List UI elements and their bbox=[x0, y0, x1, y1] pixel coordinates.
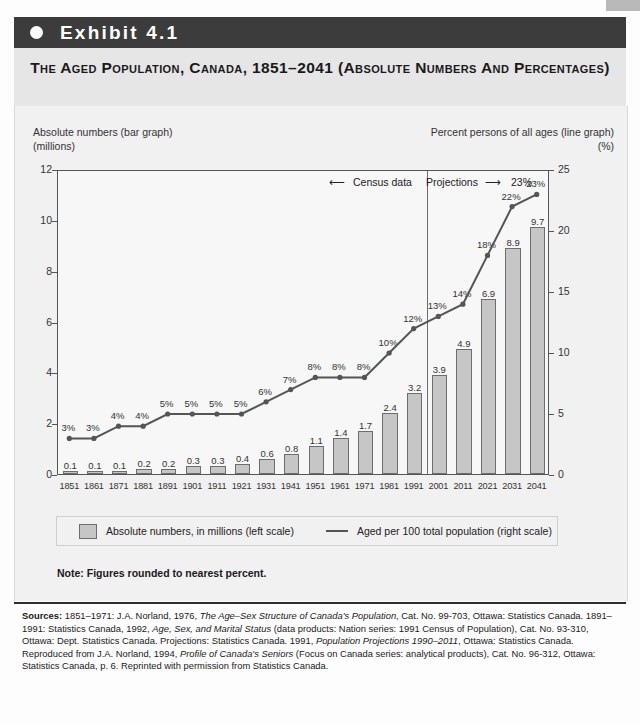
legend-bar-swatch bbox=[79, 524, 97, 539]
left-tick-8: 8 bbox=[24, 265, 52, 277]
exhibit-label: Exhibit 4.1 bbox=[60, 22, 179, 44]
right-axis-caption-line2: (%) bbox=[598, 140, 614, 153]
bar-value-label-2011: 4.9 bbox=[447, 338, 481, 349]
right-tickmark bbox=[549, 292, 554, 293]
line-value-label-1881: 4% bbox=[127, 410, 157, 421]
left-tick-12: 12 bbox=[24, 163, 52, 175]
right-tick-25: 25 bbox=[558, 163, 570, 175]
line-value-label-1921: 5% bbox=[226, 398, 256, 409]
right-tick-20: 20 bbox=[558, 224, 570, 236]
left-tick-10: 10 bbox=[24, 214, 52, 226]
left-tickmark bbox=[52, 323, 57, 324]
chart-plot-area: 0.10.10.10.20.20.30.30.40.60.81.11.41.72… bbox=[57, 170, 549, 475]
sources-divider bbox=[14, 602, 626, 604]
right-tickmark bbox=[549, 231, 554, 232]
bar-1961 bbox=[333, 438, 348, 474]
bar-1911 bbox=[210, 466, 225, 474]
bar-2031 bbox=[505, 248, 520, 474]
filled-circle-icon bbox=[30, 26, 43, 39]
bar-2001 bbox=[432, 375, 447, 474]
left-tickmark bbox=[52, 424, 57, 425]
exhibit-page: Exhibit 4.1 The Aged Population, Canada,… bbox=[0, 0, 640, 724]
bar-value-label-2041: 9.7 bbox=[521, 216, 555, 227]
legend-line-swatch bbox=[326, 530, 348, 532]
line-value-label-1861: 3% bbox=[78, 422, 108, 433]
chart-note: Note: Figures rounded to nearest percent… bbox=[57, 567, 266, 579]
x-axis-labels: 1851186118711881189119011911192119311941… bbox=[57, 481, 549, 497]
line-value-label-1981: 10% bbox=[373, 337, 403, 348]
right-tickmark bbox=[549, 475, 554, 476]
bar-1851 bbox=[63, 471, 78, 474]
page-corner-mark bbox=[606, 0, 640, 11]
left-tickmark bbox=[52, 475, 57, 476]
arrow-right-icon: ⟶ bbox=[485, 176, 501, 188]
left-tickmark bbox=[52, 221, 57, 222]
bar-1881 bbox=[136, 469, 151, 474]
census-arrow: ⟵ bbox=[329, 176, 345, 188]
bar-value-label-1971: 1.7 bbox=[349, 420, 383, 431]
bar-value-label-1981: 2.4 bbox=[373, 402, 407, 413]
right-tick-5: 5 bbox=[558, 407, 564, 419]
right-tick-10: 10 bbox=[558, 346, 570, 358]
line-value-label-2011: 14% bbox=[447, 288, 477, 299]
chart-legend: Absolute numbers, in millions (left scal… bbox=[56, 516, 558, 546]
left-tick-4: 4 bbox=[24, 366, 52, 378]
census-data-annotation: Census data bbox=[353, 176, 412, 188]
left-tickmark bbox=[52, 170, 57, 171]
bar-1931 bbox=[259, 459, 274, 474]
bar-2021 bbox=[481, 299, 496, 474]
left-tick-0: 0 bbox=[24, 468, 52, 480]
bar-1951 bbox=[309, 446, 324, 474]
bar-1891 bbox=[161, 469, 176, 474]
line-value-label-1941: 7% bbox=[275, 374, 305, 385]
right-tickmark bbox=[549, 170, 554, 171]
exhibit-header-bar: Exhibit 4.1 bbox=[14, 17, 626, 48]
right-tickmark bbox=[549, 414, 554, 415]
line-value-label-1931: 6% bbox=[250, 386, 280, 397]
sources-text: Sources: 1851–1971: J.A. Norland, 1976, … bbox=[22, 610, 622, 673]
projections-annotation: Projections bbox=[426, 176, 478, 188]
arrow-left-icon: ⟵ bbox=[329, 176, 345, 188]
projections-arrow: ⟶ bbox=[485, 176, 501, 188]
bar-2011 bbox=[456, 349, 471, 474]
right-axis-caption-line1: Percent persons of all ages (line graph) bbox=[431, 126, 614, 139]
right-tick-0: 0 bbox=[558, 468, 564, 480]
legend-line-label: Aged per 100 total population (right sca… bbox=[357, 525, 552, 537]
line-value-label-1971: 8% bbox=[349, 361, 379, 372]
left-axis-caption-line1: Absolute numbers (bar graph) bbox=[33, 126, 173, 139]
left-tickmark bbox=[52, 272, 57, 273]
left-tick-2: 2 bbox=[24, 417, 52, 429]
bar-1861 bbox=[87, 471, 102, 474]
bar-1971 bbox=[358, 431, 373, 474]
left-axis-caption-line2: (millions) bbox=[33, 140, 75, 153]
bar-1921 bbox=[235, 464, 250, 474]
left-tickmark bbox=[52, 373, 57, 374]
line-value-label-2031: 22% bbox=[496, 191, 526, 202]
final-percent-callout: 23% bbox=[511, 176, 532, 188]
line-value-label-2001: 13% bbox=[422, 300, 452, 311]
bar-1981 bbox=[382, 413, 397, 474]
page-title: The Aged Population, Canada, 1851–2041 (… bbox=[14, 57, 626, 78]
bar-1871 bbox=[112, 471, 127, 474]
x-label-2041: 2041 bbox=[520, 481, 554, 491]
line-value-label-1991: 12% bbox=[398, 313, 428, 324]
left-tick-6: 6 bbox=[24, 316, 52, 328]
line-value-label-2021: 18% bbox=[472, 239, 502, 250]
bar-2041 bbox=[530, 227, 545, 474]
right-tickmark bbox=[549, 353, 554, 354]
bar-1941 bbox=[284, 454, 299, 474]
bar-1991 bbox=[407, 393, 422, 474]
plot-frame: 0.10.10.10.20.20.30.30.40.60.81.11.41.72… bbox=[57, 170, 549, 475]
bar-1901 bbox=[186, 466, 201, 474]
right-tick-15: 15 bbox=[558, 285, 570, 297]
legend-bars-label: Absolute numbers, in millions (left scal… bbox=[106, 525, 294, 537]
